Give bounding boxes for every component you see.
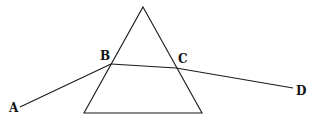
prism-diagram: A B C D <box>0 0 313 117</box>
incident-ray <box>20 64 111 107</box>
label-c: C <box>178 52 188 66</box>
refracted-ray <box>111 64 176 68</box>
label-b: B <box>100 49 110 63</box>
emergent-ray <box>176 68 293 88</box>
label-a: A <box>8 101 19 115</box>
label-d: D <box>296 84 306 98</box>
